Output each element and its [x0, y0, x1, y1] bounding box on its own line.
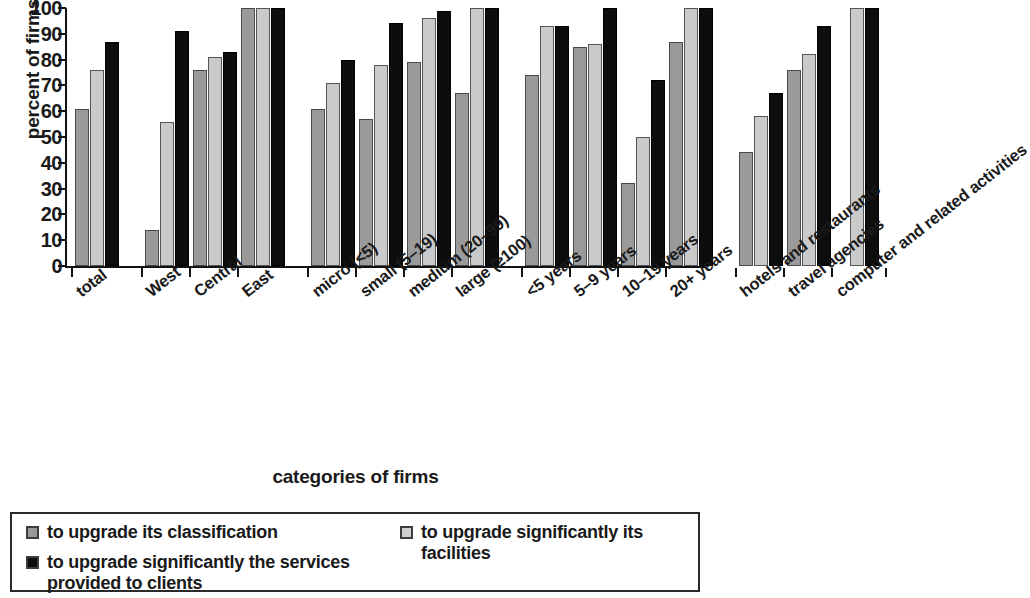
- x-axis-category-label: total: [72, 265, 110, 301]
- legend-item[interactable]: to upgrade significantly its facilities: [400, 522, 698, 564]
- y-axis-tick-mark: [58, 162, 66, 164]
- bar: [739, 152, 753, 266]
- bar: [754, 116, 768, 266]
- bar: [389, 23, 403, 266]
- y-axis-tick-mark: [58, 213, 66, 215]
- x-axis-tick-mark: [403, 268, 405, 277]
- bar: [256, 8, 270, 266]
- x-axis-tick-mark: [665, 268, 667, 277]
- x-axis-category-label: East: [238, 265, 277, 301]
- legend-label: to upgrade its classification: [47, 522, 278, 543]
- bar: [75, 109, 89, 266]
- x-axis-title: categories of firms: [0, 466, 711, 488]
- bar: [326, 83, 340, 266]
- bar: [271, 8, 285, 266]
- y-axis-tick-mark: [58, 110, 66, 112]
- legend-label: to upgrade significantly the servicespro…: [47, 552, 350, 594]
- bar: [90, 70, 104, 266]
- bar: [573, 47, 587, 266]
- legend-item[interactable]: to upgrade its classification: [26, 522, 278, 543]
- y-axis-tick-labels: 0102030405060708090100: [18, 0, 62, 270]
- y-axis-tick-mark: [58, 59, 66, 61]
- x-axis-tick-mark: [885, 268, 887, 277]
- y-axis-tick-mark: [58, 265, 66, 267]
- bar: [241, 8, 255, 266]
- bar: [636, 137, 650, 266]
- x-axis-tick-mark: [71, 268, 73, 277]
- x-axis-tick-mark: [237, 268, 239, 277]
- legend-label: to upgrade significantly its facilities: [421, 522, 698, 564]
- bar: [769, 93, 783, 266]
- y-axis-tick-mark: [58, 239, 66, 241]
- bar-chart: percent of firms 0102030405060708090100 …: [0, 0, 711, 500]
- legend-swatch-icon: [26, 526, 39, 539]
- bar: [555, 26, 569, 266]
- x-axis-tick-mark: [569, 268, 571, 277]
- x-axis-tick-mark: [831, 268, 833, 277]
- bar: [175, 31, 189, 266]
- legend-item[interactable]: to upgrade significantly the servicespro…: [26, 552, 350, 594]
- x-axis-tick-mark: [355, 268, 357, 277]
- bar: [588, 44, 602, 266]
- y-axis-tick-mark: [58, 136, 66, 138]
- bar: [223, 52, 237, 266]
- x-axis-tick-mark: [189, 268, 191, 277]
- bar: [540, 26, 554, 266]
- x-axis-tick-mark: [141, 268, 143, 277]
- bar: [437, 11, 451, 266]
- plot-area: [65, 8, 705, 266]
- bar: [374, 65, 388, 266]
- x-axis-tick-mark: [451, 268, 453, 277]
- bar: [208, 57, 222, 266]
- x-axis-category-label: West: [142, 262, 184, 301]
- bar: [105, 42, 119, 266]
- bar: [603, 8, 617, 266]
- bar: [651, 80, 665, 266]
- y-axis-tick-label: 100: [30, 0, 62, 18]
- legend-swatch-icon: [26, 556, 39, 569]
- y-axis-tick-mark: [58, 33, 66, 35]
- chart-legend: to upgrade its classificationto upgrade …: [10, 512, 700, 592]
- bar: [311, 109, 325, 266]
- y-axis-tick-mark: [58, 188, 66, 190]
- x-axis-tick-mark: [307, 268, 309, 277]
- x-axis-tick-mark: [735, 268, 737, 277]
- x-axis-tick-mark: [617, 268, 619, 277]
- bar: [669, 42, 683, 266]
- bar: [145, 230, 159, 266]
- bar: [193, 70, 207, 266]
- y-axis-tick-mark: [58, 84, 66, 86]
- y-axis-tick-mark: [58, 7, 66, 9]
- bar: [160, 122, 174, 266]
- bar: [684, 8, 698, 266]
- x-axis-tick-mark: [783, 268, 785, 277]
- bar: [699, 8, 713, 266]
- bar: [341, 60, 355, 266]
- x-axis-tick-mark: [521, 268, 523, 277]
- legend-swatch-icon: [400, 526, 413, 539]
